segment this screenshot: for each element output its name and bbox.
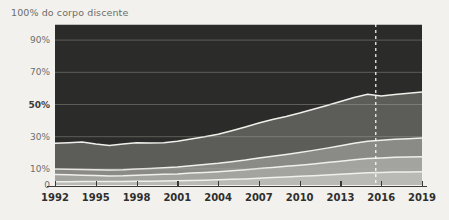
- y-tick-label: 70%: [0, 67, 50, 77]
- y-tick-label: 0: [0, 180, 50, 190]
- area-series-svg: [55, 24, 422, 185]
- x-tick-mark: [340, 181, 341, 186]
- x-tick-mark: [381, 181, 382, 186]
- x-tick-mark: [218, 181, 219, 186]
- x-tick-label: 2007: [245, 192, 273, 203]
- x-tick-mark: [137, 181, 138, 186]
- chart-title: 100% do corpo discente: [11, 7, 128, 18]
- y-tick-label: 10%: [0, 164, 50, 174]
- plot-area: [55, 24, 422, 185]
- x-tick-label: 2013: [327, 192, 355, 203]
- x-tick-mark: [55, 181, 56, 186]
- x-tick-label: 2016: [367, 192, 395, 203]
- x-tick-label: 1998: [123, 192, 151, 203]
- y-tick-label: 50%: [0, 100, 50, 110]
- x-tick-mark: [96, 181, 97, 186]
- x-tick-mark: [422, 181, 423, 186]
- x-tick-label: 1995: [82, 192, 110, 203]
- stacked-area-chart: 100% do corpo discente 90%70%50%30%10%0 …: [0, 0, 449, 220]
- x-tick-mark: [300, 181, 301, 186]
- y-tick-label: 30%: [0, 132, 50, 142]
- x-tick-mark: [177, 181, 178, 186]
- x-tick-label: 1992: [41, 192, 69, 203]
- x-tick-label: 2001: [163, 192, 191, 203]
- y-tick-label: 90%: [0, 35, 50, 45]
- x-tick-label: 2019: [408, 192, 436, 203]
- x-tick-mark: [259, 181, 260, 186]
- x-axis-line: [47, 186, 427, 187]
- x-tick-label: 2004: [204, 192, 232, 203]
- x-tick-label: 2010: [286, 192, 314, 203]
